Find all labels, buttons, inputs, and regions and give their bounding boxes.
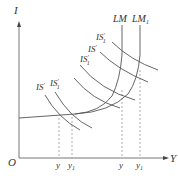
x-axis-label: Y: [170, 152, 178, 164]
is-label-5: IS'1: [95, 32, 106, 44]
origin-label: O: [8, 156, 16, 168]
is-label-4: IS': [87, 44, 98, 54]
is-label-3: IS'1: [79, 54, 90, 66]
is-curve-6: [112, 42, 158, 70]
diagram-canvas: I O Y LM LM1 IS' IS'1 IS'1 IS' IS'1 y y1…: [0, 0, 178, 176]
x-tick-y-right: y: [118, 160, 123, 170]
y-axis-arrow-icon: [17, 21, 21, 27]
x-tick-y: y: [55, 160, 60, 170]
lm-curve: [19, 25, 122, 118]
x-tick-y1: y1: [67, 160, 75, 171]
is-curve-5: [100, 52, 148, 82]
is-label-2: IS'1: [49, 78, 60, 90]
x-axis-arrow-icon: [163, 156, 169, 160]
is-label-1: IS': [35, 82, 46, 92]
lm-label: LM: [112, 13, 128, 24]
is-lm-diagram: I O Y LM LM1 IS' IS'1 IS'1 IS' IS'1 y y1…: [0, 0, 178, 176]
x-tick-y1-right: y1: [135, 160, 143, 171]
y-axis-label: I: [13, 4, 19, 16]
lm1-label: LM1: [131, 13, 149, 25]
is-curve-2: [55, 92, 92, 128]
is-curve-1: [45, 95, 80, 130]
